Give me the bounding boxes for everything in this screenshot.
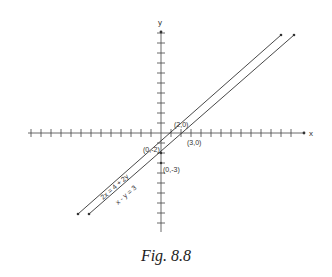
label-2-0: (2,0) (174, 121, 188, 129)
label-0-neg2: (0,-2) (143, 146, 160, 154)
line-1-upper-endpoint (280, 34, 283, 37)
label-3-0: (3,0) (187, 139, 201, 147)
figure-caption: Fig. 8.8 (0, 247, 332, 265)
line-x-minus-y-eq-3 (88, 34, 296, 216)
y-axis (157, 33, 165, 232)
x-axis (28, 129, 303, 137)
y-axis-arrowhead (160, 31, 163, 34)
label-0-neg3: (0,-3) (163, 166, 180, 174)
point-0-neg2 (160, 152, 162, 154)
line-1-lower-endpoint (77, 213, 80, 216)
line-2-lower-endpoint (88, 213, 91, 216)
line-2-upper-endpoint (293, 34, 296, 37)
y-axis-label: y (158, 18, 162, 27)
coordinate-graph: x y (2,0) (3,0) (0,-2) (0,-3) 2x = 4 + 2… (0, 0, 332, 277)
x-axis-label: x (309, 129, 313, 138)
point-0-neg3 (160, 162, 162, 164)
x-axis-arrowhead (303, 132, 306, 135)
